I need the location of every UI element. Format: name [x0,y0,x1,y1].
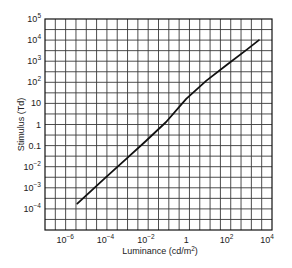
y-tick-label: 104 [27,33,41,45]
y-tick-label: 10−2 [24,160,42,172]
x-tick-label: 10−2 [137,233,155,245]
y-tick-label: 10−4 [24,202,42,214]
x-axis-ticks: 10−610−410−21102104 [56,233,274,245]
data-line [77,40,259,204]
luminance-stimulus-chart: 1051041031021010.110−210−310−4 10−610−41… [0,0,292,268]
y-tick-label: 10 [31,98,41,108]
y-tick-label: 103 [27,54,41,66]
y-axis-label: Stimulus (Td) [16,98,26,152]
y-tick-label: 0.1 [28,141,41,151]
x-tick-label: 10−4 [97,233,115,245]
x-tick-label: 10−6 [56,233,74,245]
x-axis-label: Luminance (cd/m2) [122,245,198,256]
grid [45,19,272,230]
y-axis-ticks: 1051041031021010.110−210−310−4 [24,12,42,214]
y-tick-label: 102 [27,75,41,87]
y-tick-label: 10−3 [24,181,42,193]
x-tick-label: 1 [184,235,189,245]
x-tick-label: 104 [260,233,274,245]
x-tick-label: 102 [220,233,234,245]
y-tick-label: 1 [36,120,41,130]
y-tick-label: 105 [27,12,41,24]
